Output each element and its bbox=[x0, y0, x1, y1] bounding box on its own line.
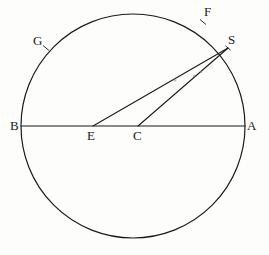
scan-speck-1 bbox=[174, 79, 177, 82]
point-label-b: B bbox=[10, 119, 19, 132]
tick-g bbox=[43, 46, 48, 50]
point-label-c: C bbox=[133, 129, 142, 142]
segment-cs bbox=[138, 48, 228, 126]
scan-speck-3 bbox=[200, 71, 202, 73]
point-label-f: F bbox=[204, 5, 211, 18]
tick-f bbox=[200, 20, 205, 24]
segment-es bbox=[93, 48, 228, 126]
point-label-g: G bbox=[33, 34, 43, 47]
point-label-a: A bbox=[247, 119, 257, 132]
drawing-layer bbox=[21, 14, 245, 238]
point-label-s: S bbox=[228, 33, 235, 46]
point-label-e: E bbox=[87, 129, 95, 142]
geometry-figure: ABCEFGS bbox=[0, 0, 269, 255]
scan-speck-2 bbox=[193, 75, 196, 78]
